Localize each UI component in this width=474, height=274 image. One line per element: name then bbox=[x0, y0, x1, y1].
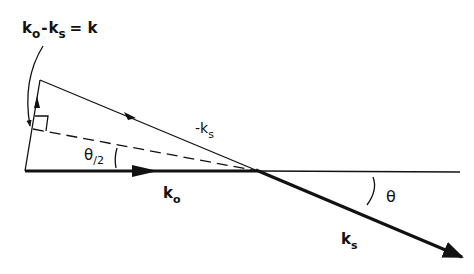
neg-ks-vector bbox=[40, 80, 258, 171]
half-theta-label: θ/2 bbox=[84, 146, 104, 167]
equation-pointer-arrow bbox=[28, 46, 43, 126]
theta-label: θ bbox=[386, 187, 396, 206]
k-arrowhead bbox=[34, 96, 40, 108]
bisector-dashed bbox=[33, 129, 258, 171]
neg-ks-label: -ks bbox=[195, 120, 214, 141]
scattering-vector-diagram: ko-ks= k -ks θ/2 ko θ ks bbox=[0, 0, 474, 274]
k-vector bbox=[25, 80, 40, 171]
half-theta-arc bbox=[115, 148, 117, 168]
equation-label: ko-ks= k bbox=[22, 19, 98, 41]
ko-label: ko bbox=[163, 184, 181, 206]
reference-line bbox=[258, 171, 460, 172]
right-angle-marker bbox=[35, 116, 48, 131]
ks-vector bbox=[256, 170, 462, 257]
ko-arrowhead bbox=[132, 165, 158, 177]
theta-arc bbox=[367, 177, 375, 205]
ks-label: ks bbox=[341, 230, 358, 252]
